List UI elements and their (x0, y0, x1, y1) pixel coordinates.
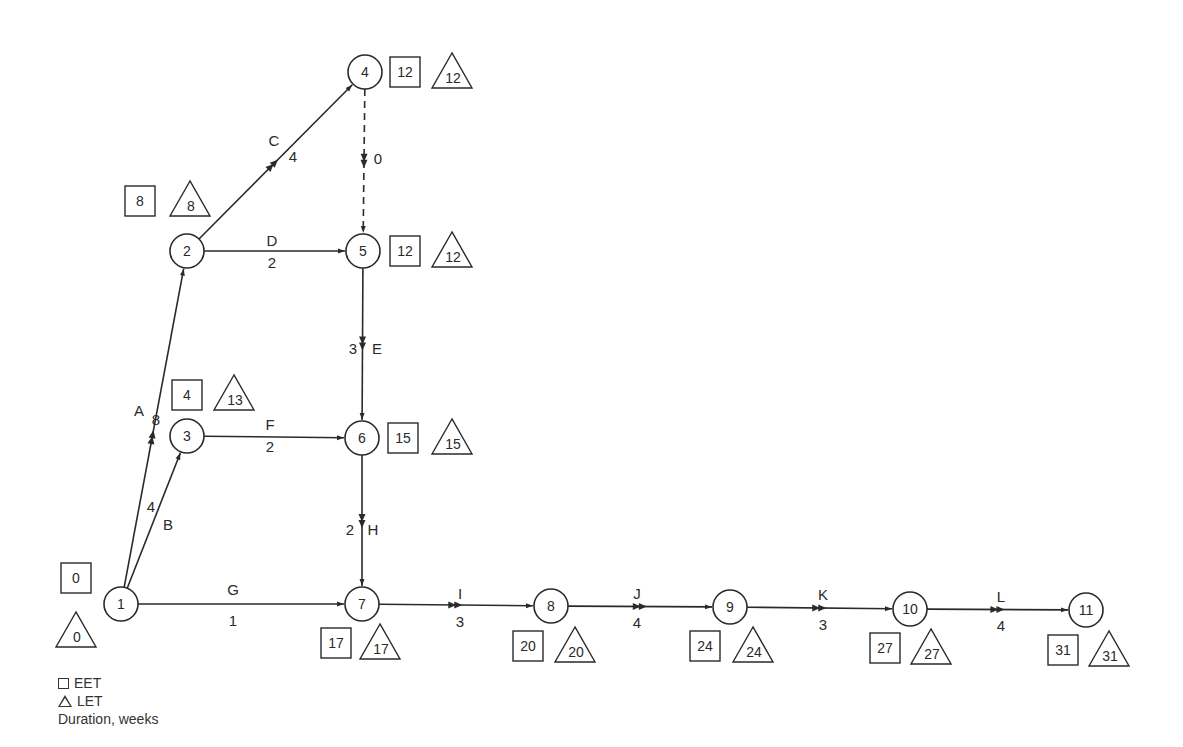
critical-mark-icon (818, 604, 826, 611)
legend-duration: Duration, weeks (58, 710, 158, 728)
let-value: 20 (568, 644, 584, 660)
activity-e (359, 268, 366, 420)
activity-c (199, 85, 352, 239)
event-node-9: 92424 (690, 590, 773, 662)
legend-duration-label: Duration, weeks (58, 710, 158, 728)
let-value: 27 (924, 646, 940, 662)
activity-label: G (227, 581, 239, 598)
activity-duration: 3 (819, 616, 827, 633)
activity-duration: 4 (147, 498, 155, 515)
event-node-8: 82020 (513, 589, 595, 662)
eet-value: 12 (397, 64, 413, 80)
activity-duration: 3 (349, 340, 357, 357)
legend: EET LET Duration, weeks (58, 674, 158, 728)
eet-value: 4 (183, 387, 191, 403)
event-node-11: 113131 (1048, 593, 1129, 666)
activity-label: E (372, 340, 382, 357)
event-node-6: 61515 (345, 419, 472, 455)
node-number: 3 (183, 428, 191, 444)
node-number: 5 (359, 243, 367, 259)
activity-label: H (368, 521, 379, 538)
eet-value: 15 (395, 430, 411, 446)
let-value: 17 (373, 641, 389, 657)
triangle-icon (58, 695, 72, 707)
event-node-5: 51212 (346, 232, 472, 268)
activity-h (359, 455, 366, 586)
node-number: 2 (183, 243, 191, 259)
node-number: 11 (1079, 602, 1094, 618)
event-node-4: 41212 (348, 53, 472, 89)
critical-mark-icon (361, 160, 368, 168)
let-value: 12 (445, 249, 461, 265)
eet-value: 12 (397, 243, 413, 259)
let-value: 0 (73, 629, 81, 645)
activity-duration: 0 (374, 150, 382, 167)
critical-mark-icon (639, 603, 647, 610)
activity-i (379, 601, 533, 608)
legend-let-label: LET (77, 692, 103, 710)
activity-labels: A8B4C4D20E3F2G1H2I3J4K3L4 (134, 132, 1005, 634)
critical-mark-icon (454, 601, 462, 608)
activity-duration: 2 (268, 254, 276, 271)
event-node-7: 71717 (321, 587, 400, 659)
legend-let: LET (58, 692, 158, 710)
eet-value: 17 (328, 635, 344, 651)
critical-mark-icon (359, 520, 366, 528)
activity-label: D (267, 232, 278, 249)
node-number: 10 (902, 601, 918, 617)
event-node-10: 102727 (870, 592, 951, 664)
activity-label: K (818, 586, 828, 603)
let-value: 12 (445, 70, 461, 86)
activity-duration: 2 (266, 438, 274, 455)
critical-mark-icon (359, 342, 366, 350)
eet-value: 0 (72, 570, 80, 586)
activity-duration: 3 (456, 613, 464, 630)
activity-dummy (361, 89, 368, 233)
activity-label: J (633, 585, 641, 602)
activity-label: B (163, 516, 173, 533)
activity-label: C (269, 132, 280, 149)
network-diagram: 1002883413412125121261515717178202092424… (0, 0, 1183, 747)
let-value: 15 (445, 436, 461, 452)
node-number: 8 (547, 598, 555, 614)
critical-mark-icon (996, 606, 1004, 613)
square-icon (58, 678, 69, 689)
let-value: 13 (227, 392, 243, 408)
activity-label: A (134, 402, 144, 419)
event-nodes: 1002883413412125121261515717178202092424… (56, 53, 1129, 666)
let-value: 31 (1102, 648, 1118, 664)
activity-j (568, 603, 712, 610)
let-value: 24 (746, 644, 762, 660)
node-number: 4 (361, 64, 369, 80)
activity-duration: 4 (997, 617, 1005, 634)
legend-eet-label: EET (74, 674, 101, 692)
let-value: 8 (187, 198, 195, 214)
activity-duration: 2 (346, 521, 354, 538)
activity-arrows (124, 85, 1068, 613)
activity-l (927, 606, 1068, 613)
event-node-3: 3413 (170, 375, 254, 453)
eet-value: 24 (697, 638, 713, 654)
node-number: 9 (726, 599, 734, 615)
node-number: 7 (358, 596, 366, 612)
activity-duration: 8 (152, 411, 160, 428)
activity-duration: 1 (229, 612, 237, 629)
node-number: 6 (358, 430, 366, 446)
activity-k (747, 604, 892, 611)
critical-mark-icon (149, 430, 156, 439)
event-node-2: 288 (125, 181, 210, 268)
activity-label: I (458, 585, 462, 602)
eet-value: 8 (136, 193, 144, 209)
activity-duration: 4 (633, 614, 641, 631)
activity-duration: 4 (289, 148, 297, 165)
eet-value: 27 (877, 640, 893, 656)
activity-label: L (997, 588, 1005, 605)
legend-eet: EET (58, 674, 158, 692)
node-number: 1 (117, 596, 125, 612)
eet-value: 20 (520, 638, 536, 654)
eet-value: 31 (1055, 642, 1071, 658)
activity-label: F (265, 416, 274, 433)
